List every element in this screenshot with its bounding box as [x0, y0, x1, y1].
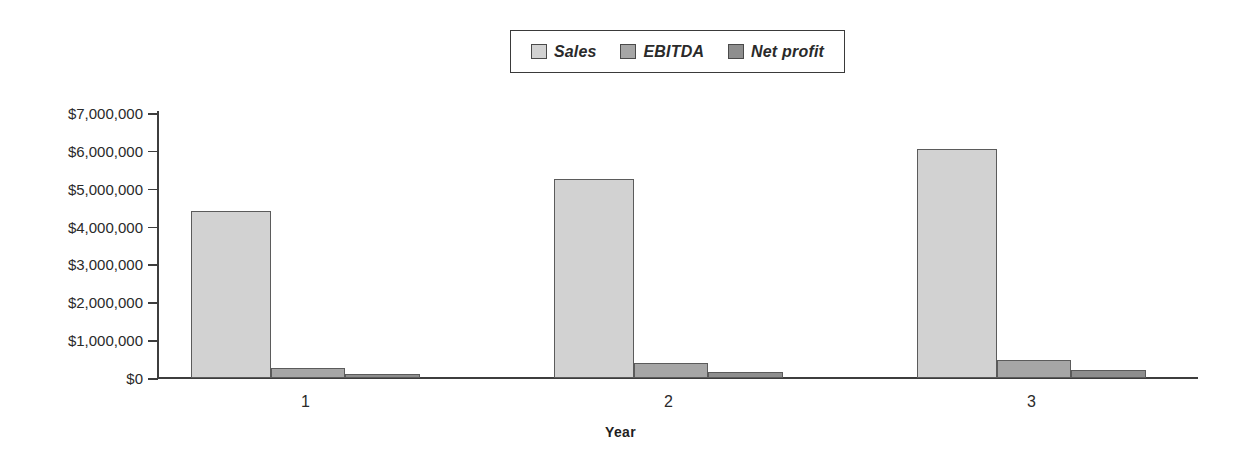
plot-area — [157, 113, 1197, 378]
x-axis-title: Year — [0, 424, 1241, 440]
bar-net-profit-year-3 — [1071, 370, 1146, 378]
legend-label-sales: Sales — [554, 43, 597, 61]
bar-net-profit-year-2 — [708, 372, 783, 378]
legend-label-net-profit: Net profit — [751, 43, 824, 61]
x-axis-label-2: 2 — [664, 393, 673, 411]
bar-chart: Sales EBITDA Net profit $7,000,000$6,000… — [0, 0, 1241, 471]
legend-entry-ebitda: EBITDA — [620, 43, 704, 61]
legend-entry-net-profit: Net profit — [728, 43, 824, 61]
chart-legend: Sales EBITDA Net profit — [510, 30, 845, 73]
bar-sales-year-3 — [917, 149, 997, 378]
bar-ebitda-year-1 — [271, 368, 345, 378]
y-axis-tick-label: $1,000,000 — [68, 332, 143, 349]
y-axis-tick-label: $3,000,000 — [68, 256, 143, 273]
y-axis-labels: $7,000,000$6,000,000$5,000,000$4,000,000… — [0, 0, 143, 471]
legend-entry-sales: Sales — [531, 43, 597, 61]
y-axis-tick-label: $7,000,000 — [68, 105, 143, 122]
y-axis-tick-label: $0 — [126, 370, 143, 387]
x-axis-label-1: 1 — [301, 393, 310, 411]
x-axis-label-3: 3 — [1027, 393, 1036, 411]
bar-ebitda-year-2 — [634, 363, 708, 378]
legend-swatch-sales — [531, 44, 547, 59]
y-axis-tick-label: $6,000,000 — [68, 142, 143, 159]
legend-swatch-ebitda — [620, 44, 636, 59]
y-axis-tick-label: $2,000,000 — [68, 294, 143, 311]
legend-label-ebitda: EBITDA — [643, 43, 704, 61]
bar-net-profit-year-1 — [345, 374, 420, 378]
bar-sales-year-2 — [554, 179, 634, 378]
bar-ebitda-year-3 — [997, 360, 1071, 378]
legend-swatch-net-profit — [728, 44, 744, 59]
y-axis-tick-label: $4,000,000 — [68, 218, 143, 235]
bar-sales-year-1 — [191, 211, 271, 378]
y-axis-tick-label: $5,000,000 — [68, 180, 143, 197]
